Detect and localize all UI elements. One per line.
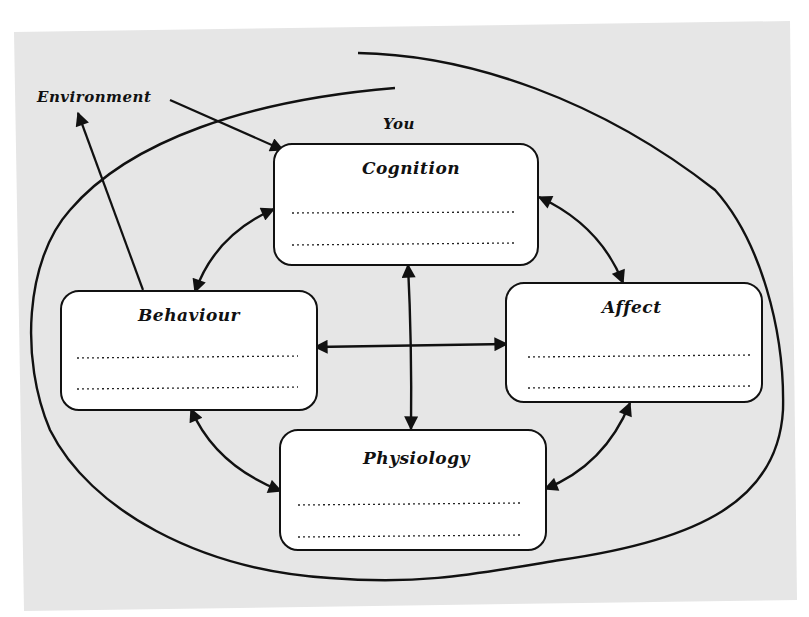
cognition-title: Cognition	[362, 158, 460, 178]
behaviour-title: Behaviour	[138, 305, 240, 325]
diagram-canvas: Environment You Cognition Behaviour Affe…	[0, 0, 809, 617]
environment-label: Environment	[37, 88, 151, 106]
you-label: You	[383, 115, 415, 133]
physiology-title: Physiology	[363, 448, 470, 468]
affect-title: Affect	[602, 297, 662, 317]
